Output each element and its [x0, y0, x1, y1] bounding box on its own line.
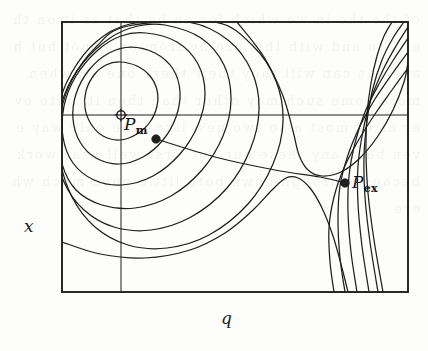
marker-dot-pm-dot	[152, 135, 161, 144]
q-axis-label: q	[221, 308, 232, 328]
contour-closed-contour-2	[73, 47, 180, 164]
contour-right-branch-5	[364, 22, 404, 292]
marker-dot-pex	[341, 179, 350, 188]
contour-right-branch-3	[348, 38, 408, 292]
point-label-pm: Pm	[124, 114, 148, 137]
contour-separatrix-upper	[237, 22, 408, 176]
contour-figure: of the the in we which for an be that as…	[0, 0, 428, 351]
contour-lines	[55, 21, 408, 292]
point-label-pm-subscript: m	[136, 124, 148, 137]
x-axis-label: x	[24, 216, 34, 236]
point-label-pm-base: P	[124, 114, 135, 134]
point-label-pex: Pex	[352, 172, 378, 195]
contour-right-branch-4	[357, 27, 408, 292]
point-label-pex-subscript: ex	[364, 182, 378, 195]
contour-closed-contour-5	[55, 21, 259, 231]
point-label-pex-base: P	[352, 172, 363, 192]
contour-right-branch-6	[366, 22, 392, 292]
contour-connector	[156, 139, 345, 183]
